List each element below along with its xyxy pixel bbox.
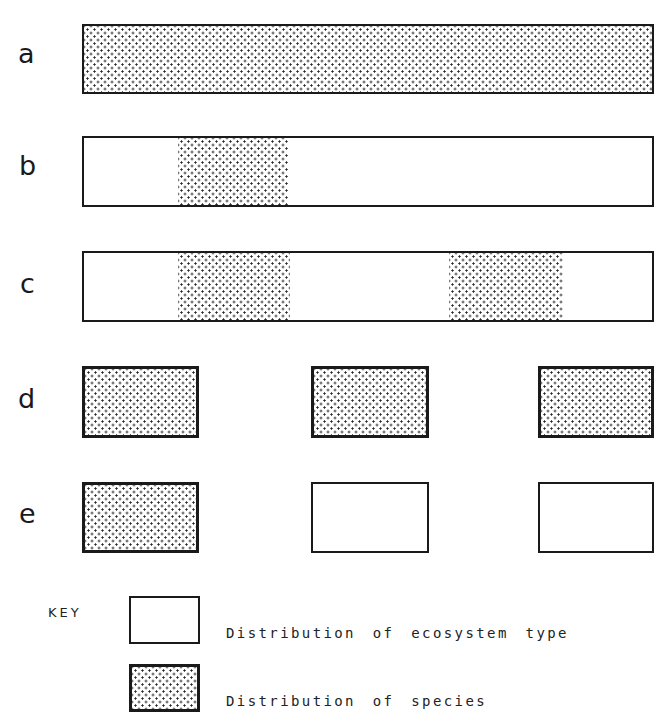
key-label-species: Distribution of species (226, 693, 487, 709)
ecosystem-bar-a-species-full (82, 24, 654, 94)
ecosystem-patch-e2-empty (311, 482, 429, 553)
ecosystem-bar-c (82, 251, 654, 322)
row-label-a: a (18, 40, 35, 67)
ecosystem-patch-e3-empty (538, 482, 654, 553)
key-title: KEY (48, 605, 82, 620)
ecosystem-patch-d3-species (538, 366, 654, 438)
ecosystem-bar-b (82, 136, 654, 207)
key-label-ecosystem: Distribution of ecosystem type (226, 625, 569, 641)
species-patch-c2 (449, 253, 563, 320)
ecosystem-patch-d2-species (311, 366, 429, 438)
ecosystem-patch-d1-species (82, 366, 199, 438)
species-patch-c1 (178, 253, 290, 320)
key-swatch-ecosystem (129, 596, 200, 644)
row-label-b: b (19, 152, 36, 179)
row-label-d: d (18, 385, 35, 412)
species-patch-b1 (178, 138, 288, 205)
row-label-c: c (20, 270, 35, 297)
ecosystem-patch-e1-species (82, 482, 199, 553)
row-label-e: e (19, 500, 36, 527)
key-swatch-species (129, 664, 200, 712)
